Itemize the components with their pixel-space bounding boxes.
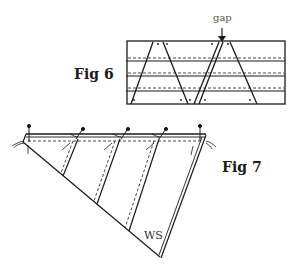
fig6-label: Fig 6 xyxy=(74,66,114,82)
wrong-side-label: WS xyxy=(144,229,163,242)
fig6-drawing xyxy=(126,28,285,104)
fig7-drawing xyxy=(12,124,216,258)
fig7-label: Fig 7 xyxy=(222,159,262,175)
gap-label: gap xyxy=(213,12,232,23)
